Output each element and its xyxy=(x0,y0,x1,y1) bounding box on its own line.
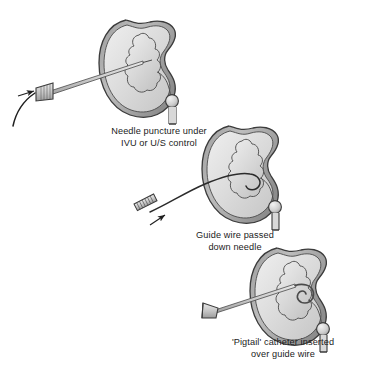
skin-surface-line xyxy=(13,93,35,126)
caption-panel-2-line-1: Guide wire passed xyxy=(150,230,320,242)
needle-hub-2 xyxy=(134,194,157,211)
caption-panel-3-line-2: over guide wire xyxy=(195,349,371,361)
caption-panel-3-line-1: 'Pigtail' catheter inserted xyxy=(195,337,371,349)
renal-calculus-2 xyxy=(269,201,282,214)
caption-panel-1-line-1: Needle puncture under xyxy=(74,126,244,138)
panel-1-illustration xyxy=(13,20,178,126)
ureter-fill-2 xyxy=(272,213,279,230)
catheter-hub-3 xyxy=(202,303,218,318)
caption-panel-2-line-2: down needle xyxy=(150,242,320,254)
caption-panel-1: Needle puncture under IVU or U/S control xyxy=(74,126,244,149)
needle-hub-1 xyxy=(36,83,53,101)
nephrostomy-figure: Needle puncture under IVU or U/S control… xyxy=(0,0,375,381)
renal-calculus-3 xyxy=(317,323,330,336)
direction-arrow-icon-2 xyxy=(150,215,165,225)
caption-panel-1-line-2: IVU or U/S control xyxy=(74,138,244,150)
caption-panel-3: 'Pigtail' catheter inserted over guide w… xyxy=(195,337,371,360)
caption-panel-2: Guide wire passed down needle xyxy=(150,230,320,253)
renal-calculus-1 xyxy=(166,95,179,108)
figure-illustration-canvas xyxy=(0,0,375,381)
ureter-fill-1 xyxy=(169,107,176,124)
